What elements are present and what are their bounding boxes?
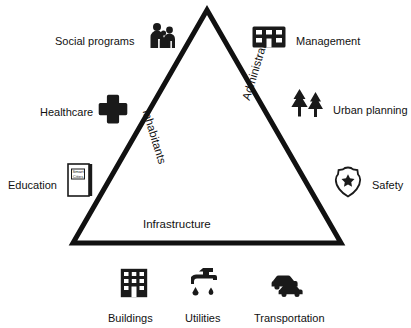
apartment-block-icon bbox=[120, 268, 148, 298]
label-education: Education bbox=[8, 179, 57, 192]
label-safety: Safety bbox=[372, 179, 403, 192]
office-building-icon bbox=[252, 26, 286, 48]
faucet-water-icon bbox=[191, 267, 221, 299]
cars-icon bbox=[265, 272, 305, 298]
label-transportation: Transportation bbox=[254, 312, 325, 325]
trees-icon bbox=[290, 88, 326, 118]
label-buildings: Buildings bbox=[108, 312, 153, 325]
medical-cross-icon bbox=[98, 94, 128, 124]
book-cover-line2: Cities bbox=[73, 174, 83, 179]
people-group-icon bbox=[148, 21, 178, 49]
diagram-canvas: Inhabitants Administration Infrastructur… bbox=[0, 0, 411, 328]
label-utilities: Utilities bbox=[185, 312, 220, 325]
label-social-programs: Social programs bbox=[55, 35, 134, 48]
label-management: Management bbox=[296, 35, 360, 48]
book-icon: Smart Cities bbox=[67, 163, 93, 197]
label-urban-planning: Urban planning bbox=[333, 104, 408, 117]
label-healthcare: Healthcare bbox=[40, 106, 93, 119]
triangle-side-label-infrastructure: Infrastructure bbox=[143, 218, 211, 231]
police-badge-icon bbox=[332, 166, 364, 198]
